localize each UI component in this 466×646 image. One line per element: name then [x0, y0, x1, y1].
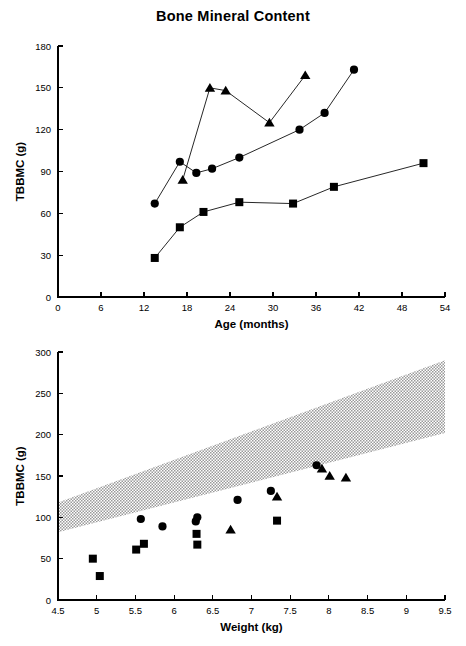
- bottom-chart-panel: 0501001502002503004.555.566.577.588.599.…: [0, 320, 466, 646]
- x-axis-tick-label: 6.5: [206, 605, 219, 616]
- data-point-circle: [193, 513, 201, 521]
- data-point-circle: [158, 522, 166, 530]
- y-axis-tick-label: 90: [40, 166, 51, 177]
- x-axis-tick-label: 6: [171, 605, 176, 616]
- x-axis-tick-label: 9.5: [438, 605, 451, 616]
- reference-range-band: [58, 360, 445, 532]
- data-point-circle: [192, 169, 200, 177]
- series-line-square: [155, 163, 424, 258]
- data-point-square: [273, 517, 281, 525]
- y-axis-tick-label: 120: [35, 124, 51, 135]
- data-point-square: [140, 540, 148, 548]
- data-point-circle: [267, 487, 275, 495]
- data-point-square: [235, 198, 243, 206]
- x-axis-tick-label: 7: [249, 605, 254, 616]
- data-point-triangle: [300, 70, 310, 79]
- x-axis-tick-label: 54: [440, 302, 451, 313]
- data-point-square: [132, 546, 140, 554]
- x-axis-tick-label: 5: [94, 605, 99, 616]
- data-point-triangle: [341, 473, 351, 482]
- data-point-square: [89, 555, 97, 563]
- data-point-circle: [350, 66, 358, 74]
- y-axis-tick-label: 180: [35, 41, 51, 52]
- data-point-triangle: [324, 471, 334, 480]
- x-axis-title: Weight (kg): [220, 621, 283, 633]
- y-axis-title: TBBMC (g): [14, 446, 26, 506]
- bone-mineral-content-figure: Bone Mineral Content 0306090120150180061…: [0, 0, 466, 646]
- x-axis-tick-label: 9: [404, 605, 409, 616]
- series-line-triangle: [183, 75, 306, 180]
- data-point-circle: [321, 109, 329, 117]
- data-point-circle: [151, 199, 159, 207]
- y-axis-tick-label: 150: [35, 82, 51, 93]
- y-axis-tick-label: 250: [35, 388, 51, 399]
- data-point-square: [96, 572, 104, 580]
- x-axis-tick-label: 48: [397, 302, 408, 313]
- data-point-circle: [176, 158, 184, 166]
- y-axis-title: TBBMC (g): [14, 142, 26, 202]
- data-point-square: [199, 208, 207, 216]
- y-axis-tick-label: 30: [40, 250, 51, 261]
- data-point-triangle: [205, 83, 215, 92]
- x-axis-tick-label: 42: [354, 302, 365, 313]
- x-axis-tick-label: 36: [311, 302, 322, 313]
- y-axis-tick-label: 150: [35, 471, 51, 482]
- data-point-square: [330, 183, 338, 191]
- x-axis-tick-label: 7.5: [284, 605, 297, 616]
- age-vs-tbbmc-line-chart: 0306090120150180061218243036424854Age (m…: [0, 0, 466, 330]
- x-axis-tick-label: 5.5: [129, 605, 142, 616]
- x-axis-tick-label: 4.5: [51, 605, 64, 616]
- x-axis-tick-label: 30: [268, 302, 279, 313]
- data-point-square: [176, 223, 184, 231]
- data-point-circle: [208, 165, 216, 173]
- y-axis-tick-label: 300: [35, 347, 51, 358]
- y-axis-tick-label: 0: [46, 595, 51, 606]
- axis-spines: [58, 46, 445, 297]
- data-point-circle: [233, 496, 241, 504]
- y-axis-tick-label: 100: [35, 512, 51, 523]
- data-point-circle: [235, 153, 243, 161]
- data-point-circle: [295, 126, 303, 134]
- weight-vs-tbbmc-scatter-chart: 0501001502002503004.555.566.577.588.599.…: [0, 320, 466, 646]
- x-axis-tick-label: 18: [182, 302, 193, 313]
- x-axis-tick-label: 12: [139, 302, 150, 313]
- x-axis-tick-label: 6: [98, 302, 103, 313]
- y-axis-tick-label: 0: [46, 292, 51, 303]
- x-axis-tick-label: 0: [55, 302, 60, 313]
- data-point-square: [193, 530, 201, 538]
- data-point-square: [193, 541, 201, 549]
- data-point-square: [151, 254, 159, 262]
- data-point-circle: [137, 515, 145, 523]
- y-axis-tick-label: 50: [40, 553, 51, 564]
- data-point-triangle: [264, 118, 274, 127]
- data-point-triangle: [178, 175, 188, 184]
- data-point-triangle: [225, 525, 235, 534]
- x-axis-tick-label: 8.5: [361, 605, 374, 616]
- y-axis-tick-label: 60: [40, 208, 51, 219]
- y-axis-tick-label: 200: [35, 429, 51, 440]
- x-axis-tick-label: 24: [225, 302, 236, 313]
- data-point-square: [289, 200, 297, 208]
- x-axis-tick-label: 8: [326, 605, 331, 616]
- data-point-square: [420, 159, 428, 167]
- top-chart-panel: Bone Mineral Content 0306090120150180061…: [0, 0, 466, 330]
